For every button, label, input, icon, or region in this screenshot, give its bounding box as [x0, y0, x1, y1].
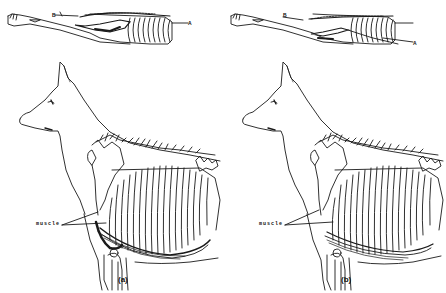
caption-b: (b) [341, 275, 351, 284]
top-view-b [231, 14, 413, 44]
label-b-top-view-b: B [283, 12, 287, 18]
dog-anatomy-drawing-a [0, 0, 223, 293]
label-a-top-view-a: A [188, 20, 192, 26]
panel-a: A B muscle (a) [0, 0, 223, 293]
label-a-top-view-b: A [413, 40, 417, 46]
panel-b: A B muscle (b) [223, 0, 446, 293]
dog-body-b [243, 62, 444, 290]
muscle-label-a: muscle [36, 221, 60, 227]
muscle-label-b: muscle [259, 221, 283, 227]
top-view-a [8, 12, 188, 44]
label-b-top-view-a: B [52, 12, 56, 18]
dog-body-a [20, 62, 221, 290]
caption-a: (a) [118, 275, 128, 284]
